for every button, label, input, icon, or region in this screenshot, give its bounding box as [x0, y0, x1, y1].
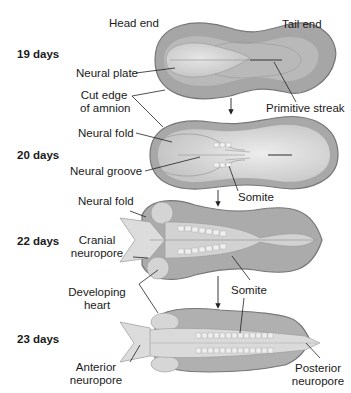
tail-end-label: Tail end: [282, 18, 322, 31]
label-developing-heart: Developing heart: [64, 286, 130, 312]
label-neural-fold-22: Neural fold: [78, 195, 134, 208]
label-neural-groove: Neural groove: [70, 165, 142, 178]
label-somite-20: Somite: [238, 191, 274, 204]
label-primitive-streak: Primitive streak: [266, 102, 345, 115]
day-label-20: 20 days: [17, 149, 59, 161]
day-label-23: 23 days: [17, 333, 59, 345]
label-posterior-neuropore: Posterior neuropore: [287, 362, 349, 388]
label-anterior-neuropore: Anterior neuropore: [66, 361, 126, 387]
label-cranial-neuropore: Cranial neuropore: [68, 234, 126, 260]
label-cut-edge-of-amnion: Cut edge of amnion: [80, 89, 128, 115]
label-somite-22: Somite: [231, 284, 267, 297]
label-neural-plate: Neural plate: [76, 67, 138, 80]
head-end-label: Head end: [109, 17, 159, 30]
day-label-22: 22 days: [17, 235, 59, 247]
label-neural-fold-20: Neural fold: [78, 127, 134, 140]
embryo-20-days: [150, 117, 338, 189]
embryo-19-days: [155, 23, 336, 99]
embryo-22-days: [120, 201, 322, 280]
day-label-19: 19 days: [17, 48, 59, 60]
